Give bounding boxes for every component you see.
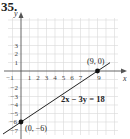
- x-tick: 4: [53, 74, 57, 82]
- y-axis-arrow-icon: [19, 12, 24, 18]
- x-axis-arrow-icon: [121, 69, 127, 74]
- point-label-x-intercept: (9, 0): [87, 57, 105, 66]
- equation-label: 2x − 3y = 18: [61, 94, 105, 104]
- x-tick: 1: [28, 74, 32, 82]
- x-axis-label: x: [122, 74, 127, 83]
- x-tick: 5: [62, 74, 66, 82]
- y-tick: −7: [11, 127, 19, 135]
- y-tick: 1: [15, 59, 19, 67]
- y-tick: 2: [15, 50, 19, 58]
- x-tick: 7: [79, 74, 83, 82]
- point-y-intercept: [19, 120, 24, 125]
- x-tick: 3: [45, 74, 49, 82]
- axes: [4, 12, 127, 139]
- y-tick: 3: [15, 42, 19, 50]
- y-tick: −3: [11, 93, 19, 101]
- point-x-intercept: [95, 69, 100, 74]
- x-tick: −1: [6, 74, 14, 82]
- x-tick: 9: [97, 74, 101, 82]
- y-axis-label: y: [13, 9, 18, 18]
- y-tick: −5: [11, 110, 19, 118]
- x-tick: 2: [36, 74, 40, 82]
- y-tick: −2: [11, 84, 19, 92]
- coordinate-plane: y x −1 1 2 3 4 5 6 7 9 3 2 1 −2 −3 −4 −5…: [0, 0, 130, 139]
- x-tick: 6: [70, 74, 74, 82]
- y-tick: −6: [10, 118, 18, 126]
- point-label-y-intercept: (0, −6): [25, 124, 47, 133]
- y-tick: −4: [11, 101, 19, 109]
